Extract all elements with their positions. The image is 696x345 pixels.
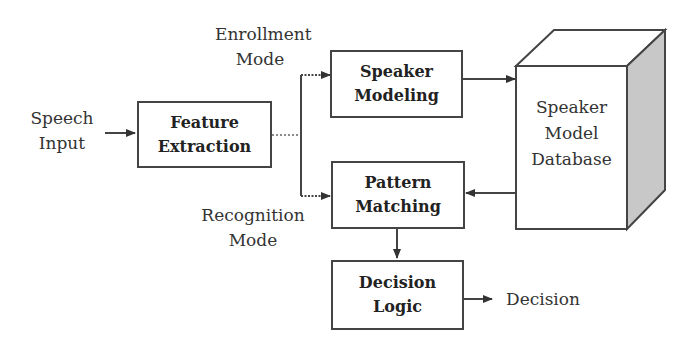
enrollment-line1: Enrollment [215,22,305,47]
decision-logic-box[interactable]: Decision Logic [331,260,464,330]
decision-logic-line1: Decision [359,271,436,295]
database-line3: Database [516,146,627,172]
database-line2: Model [516,120,627,146]
speech-input-line2: Input [22,131,102,156]
speech-input-line1: Speech [22,106,102,131]
decision-logic-line2: Logic [359,295,436,319]
pattern-matching-line2: Matching [355,195,441,219]
recognition-line2: Mode [198,228,308,253]
enrollment-line2: Mode [215,47,305,72]
speaker-modeling-box[interactable]: Speaker Modeling [330,50,463,118]
speech-input-label: Speech Input [22,106,102,156]
speaker-modeling-line1: Speaker [354,60,439,84]
pattern-matching-line1: Pattern [355,171,441,195]
pattern-matching-box[interactable]: Pattern Matching [331,161,465,229]
enrollment-mode-label: Enrollment Mode [215,22,305,72]
recognition-mode-label: Recognition Mode [198,203,308,253]
feature-extraction-line2: Extraction [158,135,251,159]
speaker-modeling-line2: Modeling [354,84,439,108]
feature-extraction-line1: Feature [158,111,251,135]
recognition-line1: Recognition [198,203,308,228]
database-label[interactable]: Speaker Model Database [516,94,627,172]
feature-extraction-box[interactable]: Feature Extraction [137,101,272,168]
decision-output-label: Decision [506,287,596,312]
database-line1: Speaker [516,94,627,120]
